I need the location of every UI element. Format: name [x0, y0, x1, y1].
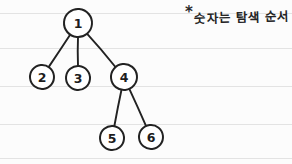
tree-edge — [130, 89, 146, 125]
asterisk-icon: * — [185, 5, 193, 20]
node-label-3: 3 — [74, 72, 83, 85]
node-label-6: 6 — [147, 131, 156, 144]
node-label-1: 1 — [74, 17, 83, 30]
tree-edge — [114, 90, 121, 125]
node-label-2: 2 — [38, 71, 47, 84]
node-label-5: 5 — [108, 132, 117, 145]
tree-edge — [87, 34, 115, 67]
node-label-4: 4 — [120, 71, 129, 84]
notebook-page: 123456 * 숫자는 탐색 순서 — [0, 0, 292, 164]
tree-nodes — [29, 8, 164, 151]
annotation-label: 숫자는 탐색 순서 — [194, 11, 290, 26]
tree-edge — [49, 35, 70, 67]
